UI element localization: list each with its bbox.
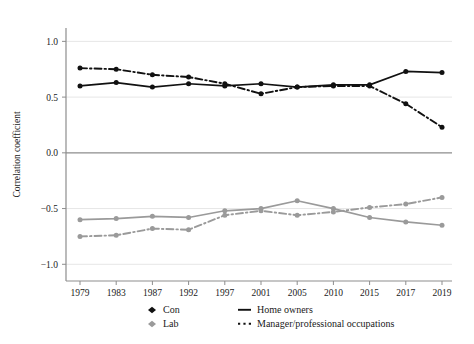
data-point (78, 66, 83, 71)
data-point (331, 83, 336, 88)
data-point (259, 81, 264, 86)
data-point (114, 233, 119, 238)
legend-marker-con (148, 307, 156, 313)
x-tick-label: 2001 (252, 288, 271, 298)
data-point (78, 234, 83, 239)
data-point (295, 213, 300, 218)
data-point (222, 213, 227, 218)
data-point (150, 85, 155, 90)
data-point (403, 101, 408, 106)
y-tick-label: 0.5 (46, 93, 58, 103)
correlation-coefficient-chart: 1.00.50.0−0.5−1.019791983198719921997200… (0, 0, 474, 344)
y-tick-label: −1.0 (41, 260, 58, 270)
legend-label-lab: Lab (163, 318, 179, 329)
data-point (440, 195, 445, 200)
data-point (150, 214, 155, 219)
series-line-1 (80, 68, 442, 127)
data-point (222, 81, 227, 86)
x-tick-label: 1987 (143, 288, 162, 298)
data-point (403, 69, 408, 74)
data-point (440, 223, 445, 228)
data-point (114, 67, 119, 72)
x-tick-label: 2005 (288, 288, 307, 298)
x-tick-label: 1997 (215, 288, 234, 298)
data-point (78, 217, 83, 222)
legend-label-con: Con (163, 304, 180, 315)
data-point (403, 202, 408, 207)
data-point (367, 215, 372, 220)
data-point (440, 125, 445, 130)
data-point (186, 227, 191, 232)
data-point (295, 198, 300, 203)
x-tick-label: 1992 (179, 288, 198, 298)
data-point (367, 205, 372, 210)
legend-label-manager-professional: Manager/professional occupations (257, 318, 395, 329)
data-point (259, 91, 264, 96)
chart-canvas: 1.00.50.0−0.5−1.019791983198719921997200… (0, 0, 474, 344)
data-point (440, 70, 445, 75)
data-point (367, 83, 372, 88)
x-tick-label: 2010 (324, 288, 343, 298)
x-tick-label: 1979 (71, 288, 90, 298)
y-tick-label: 0.0 (46, 148, 58, 158)
data-point (186, 215, 191, 220)
legend-label-home-owners: Home owners (257, 304, 313, 315)
data-point (186, 75, 191, 80)
x-tick-label: 2017 (396, 288, 415, 298)
data-point (295, 85, 300, 90)
data-point (259, 208, 264, 213)
data-point (403, 219, 408, 224)
data-point (114, 216, 119, 221)
data-point (186, 81, 191, 86)
data-point (150, 226, 155, 231)
y-tick-label: −0.5 (41, 204, 58, 214)
data-point (78, 83, 83, 88)
x-tick-label: 1983 (107, 288, 126, 298)
data-point (222, 208, 227, 213)
data-point (331, 209, 336, 214)
x-tick-label: 2015 (360, 288, 379, 298)
legend-marker-lab (148, 321, 156, 327)
x-tick-label: 2019 (433, 288, 452, 298)
y-axis-title: Correlation coefficient (12, 111, 22, 197)
data-point (114, 80, 119, 85)
data-point (150, 72, 155, 77)
y-tick-label: 1.0 (46, 37, 58, 47)
